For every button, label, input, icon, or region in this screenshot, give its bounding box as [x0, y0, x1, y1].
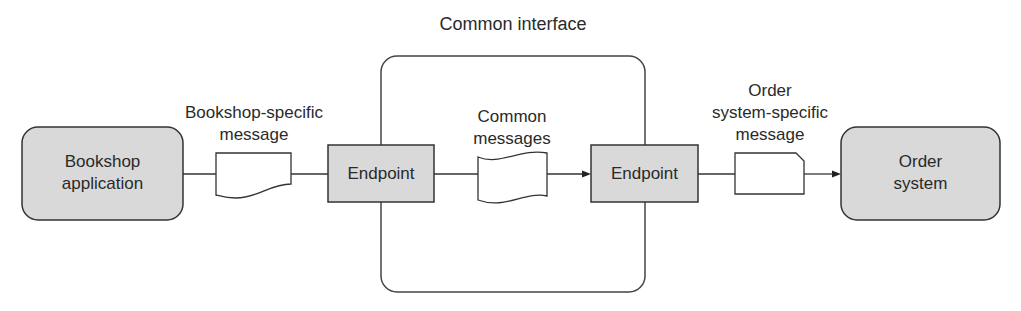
- common-messages-line2: messages: [452, 128, 572, 150]
- order-message-line3: message: [700, 124, 840, 146]
- endpoint-left-label: Endpoint: [328, 163, 434, 185]
- bookshop-message-doc-icon: [216, 153, 291, 198]
- order-message-line2: system-specific: [700, 102, 840, 124]
- order-system-line2: system: [841, 173, 1000, 195]
- common-messages-label: Common messages: [452, 106, 572, 150]
- common-messages-wave-icon: [478, 152, 547, 203]
- bookshop-label-line1: Bookshop: [22, 151, 183, 173]
- order-system-line1: Order: [841, 151, 1000, 173]
- bookshop-message-line2: message: [170, 124, 338, 146]
- order-message-line1: Order: [700, 80, 840, 102]
- order-message-label: Order system-specific message: [700, 80, 840, 146]
- common-interface-title: Common interface: [413, 13, 613, 35]
- common-messages-line1: Common: [452, 106, 572, 128]
- arrowhead-icon: [582, 171, 591, 178]
- order-message-doc-icon: [735, 153, 804, 194]
- bookshop-message-line1: Bookshop-specific: [170, 102, 338, 124]
- bookshop-label-line2: application: [22, 173, 183, 195]
- bookshop-message-label: Bookshop-specific message: [170, 102, 338, 146]
- endpoint-right-label: Endpoint: [591, 163, 698, 185]
- order-system-node-label: Order system: [841, 151, 1000, 195]
- bookshop-node-label: Bookshop application: [22, 151, 183, 195]
- arrowhead-icon: [832, 171, 841, 178]
